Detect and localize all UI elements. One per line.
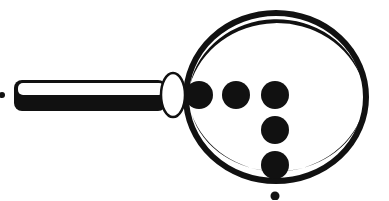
left-end-dot bbox=[0, 92, 5, 98]
handle bbox=[14, 80, 166, 111]
bottom-end-dot bbox=[271, 192, 280, 201]
magnifier-diagram bbox=[0, 0, 389, 200]
dot-4 bbox=[261, 116, 289, 144]
dot-5 bbox=[261, 151, 289, 179]
dot-2 bbox=[222, 81, 250, 109]
dot-1 bbox=[185, 81, 213, 109]
dot-3 bbox=[261, 81, 289, 109]
ferrule bbox=[161, 73, 185, 117]
